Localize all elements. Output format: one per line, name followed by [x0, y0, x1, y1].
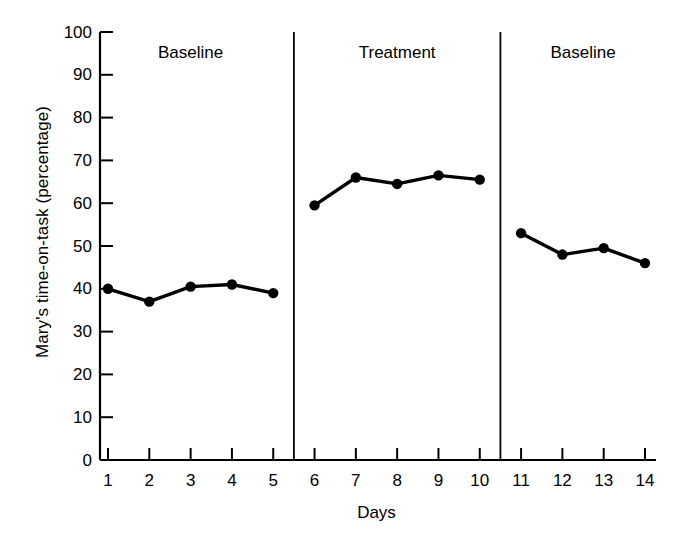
- phase-label: Treatment: [317, 44, 477, 61]
- data-point-marker: [185, 281, 195, 291]
- x-tick-label: 7: [336, 472, 376, 489]
- y-tick-label: 90: [46, 66, 92, 83]
- data-point-marker: [351, 172, 361, 182]
- data-point-marker: [598, 243, 608, 253]
- data-point-marker: [557, 249, 567, 259]
- data-point-marker: [640, 258, 650, 268]
- chart-plot-area: [0, 0, 680, 544]
- data-point-marker: [227, 279, 237, 289]
- axes-group: [100, 32, 656, 460]
- x-tick-label: 11: [501, 472, 541, 489]
- x-tick-label: 8: [377, 472, 417, 489]
- y-tick-label: 100: [46, 24, 92, 41]
- x-tick-label: 2: [129, 472, 169, 489]
- x-tick-label: 1: [88, 472, 128, 489]
- y-tick-label: 30: [46, 323, 92, 340]
- x-tick-label: 12: [542, 472, 582, 489]
- x-tick-label: 6: [295, 472, 335, 489]
- data-point-marker: [392, 179, 402, 189]
- y-tick-label: 70: [46, 152, 92, 169]
- phase-label: Baseline: [111, 44, 271, 61]
- y-tick-label: 40: [46, 280, 92, 297]
- series-line-segment: [521, 233, 645, 263]
- x-tick-label: 5: [253, 472, 293, 489]
- phase-dividers-group: [294, 32, 501, 460]
- data-point-marker: [103, 284, 113, 294]
- x-tick-label: 9: [418, 472, 458, 489]
- x-tick-label: 13: [584, 472, 624, 489]
- x-tick-label: 4: [212, 472, 252, 489]
- x-tick-label: 14: [625, 472, 665, 489]
- x-tick-label: 3: [171, 472, 211, 489]
- data-series-group: [103, 170, 650, 307]
- data-point-marker: [433, 170, 443, 180]
- y-tick-label: 50: [46, 238, 92, 255]
- data-point-marker: [144, 296, 154, 306]
- data-point-marker: [309, 200, 319, 210]
- y-tick-label: 0: [46, 452, 92, 469]
- phase-label: Baseline: [503, 44, 663, 61]
- data-point-marker: [268, 288, 278, 298]
- y-tick-label: 80: [46, 109, 92, 126]
- y-tick-label: 20: [46, 366, 92, 383]
- data-point-marker: [516, 228, 526, 238]
- y-tick-label: 60: [46, 195, 92, 212]
- x-axis-title: Days: [108, 504, 645, 521]
- data-point-marker: [475, 174, 485, 184]
- x-tick-label: 10: [460, 472, 500, 489]
- single-subject-line-chart: Mary's time-on-task (percentage) Days 01…: [0, 0, 680, 544]
- y-tick-label: 10: [46, 409, 92, 426]
